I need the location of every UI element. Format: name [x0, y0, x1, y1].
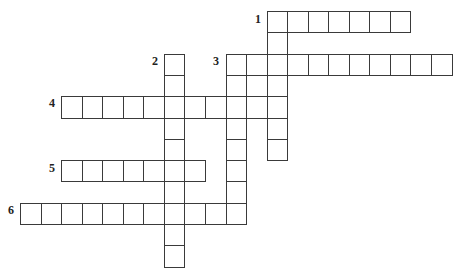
crossword-cell[interactable]: [267, 139, 288, 161]
crossword-cell[interactable]: [164, 96, 185, 119]
crossword-cell[interactable]: [267, 11, 288, 33]
clue-number-label: 2: [152, 55, 158, 67]
crossword-cell[interactable]: [164, 139, 185, 161]
crossword-cell[interactable]: [390, 11, 411, 33]
crossword-cell[interactable]: [164, 54, 185, 76]
crossword-cell[interactable]: [226, 160, 247, 182]
crossword-cell[interactable]: [226, 75, 247, 97]
crossword-cell[interactable]: [164, 160, 185, 182]
crossword-cell[interactable]: [82, 160, 103, 182]
crossword-cell[interactable]: [369, 54, 391, 76]
crossword-cell[interactable]: [123, 203, 144, 225]
crossword-cell[interactable]: [123, 160, 144, 182]
crossword-cell[interactable]: [143, 160, 165, 182]
crossword-cell[interactable]: [164, 245, 185, 268]
crossword-cell[interactable]: [267, 54, 288, 76]
crossword-cell[interactable]: [431, 54, 453, 76]
crossword-cell[interactable]: [246, 96, 268, 119]
crossword-cell[interactable]: [246, 75, 268, 97]
clue-number-label: 1: [255, 13, 261, 25]
crossword-cell[interactable]: [308, 54, 329, 76]
crossword-cell[interactable]: [143, 96, 165, 119]
crossword-cell[interactable]: [164, 181, 185, 204]
crossword-cell[interactable]: [102, 203, 124, 225]
crossword-cell[interactable]: [61, 203, 83, 225]
crossword-cell[interactable]: [246, 54, 268, 76]
crossword-cell[interactable]: [143, 203, 165, 225]
crossword-cell[interactable]: [164, 118, 185, 140]
crossword-cell[interactable]: [390, 54, 411, 76]
crossword-cell[interactable]: [205, 203, 227, 225]
crossword-cell[interactable]: [184, 96, 206, 119]
crossword-cell[interactable]: [164, 203, 185, 225]
crossword-cell[interactable]: [226, 118, 247, 140]
crossword-cell[interactable]: [82, 203, 103, 225]
crossword-cell[interactable]: [226, 96, 247, 119]
clue-number-label: 3: [213, 55, 219, 67]
crossword-cell[interactable]: [410, 54, 432, 76]
crossword-cell[interactable]: [287, 11, 309, 33]
crossword-cell[interactable]: [164, 75, 185, 97]
crossword-cell[interactable]: [369, 11, 391, 33]
crossword-cell[interactable]: [184, 203, 206, 225]
crossword-cell[interactable]: [20, 203, 42, 225]
crossword-cell[interactable]: [328, 11, 350, 33]
crossword-cell[interactable]: [328, 54, 350, 76]
crossword-cell[interactable]: [205, 96, 227, 119]
crossword-cell[interactable]: [226, 181, 247, 204]
crossword-cell[interactable]: [61, 160, 83, 182]
crossword-cell[interactable]: [267, 75, 288, 97]
crossword-cell[interactable]: [41, 203, 62, 225]
crossword-cell[interactable]: [102, 160, 124, 182]
crossword-cell[interactable]: [226, 54, 247, 76]
crossword-cell[interactable]: [349, 54, 370, 76]
clue-number-label: 4: [49, 97, 55, 109]
crossword-cell[interactable]: [308, 11, 329, 33]
crossword-cell[interactable]: [287, 54, 309, 76]
crossword-cell[interactable]: [226, 139, 247, 161]
clue-number-label: 6: [8, 204, 14, 216]
crossword-cell[interactable]: [267, 96, 288, 119]
crossword-cell[interactable]: [349, 11, 370, 33]
crossword-cell[interactable]: [267, 118, 288, 140]
crossword-grid: 123456: [0, 0, 465, 276]
crossword-cell[interactable]: [184, 160, 206, 182]
crossword-cell[interactable]: [226, 203, 247, 225]
crossword-cell[interactable]: [102, 96, 124, 119]
crossword-cell[interactable]: [61, 96, 83, 119]
clue-number-label: 5: [49, 162, 55, 174]
crossword-cell[interactable]: [267, 32, 288, 55]
crossword-cell[interactable]: [123, 96, 144, 119]
crossword-cell[interactable]: [164, 224, 185, 246]
crossword-cell[interactable]: [82, 96, 103, 119]
